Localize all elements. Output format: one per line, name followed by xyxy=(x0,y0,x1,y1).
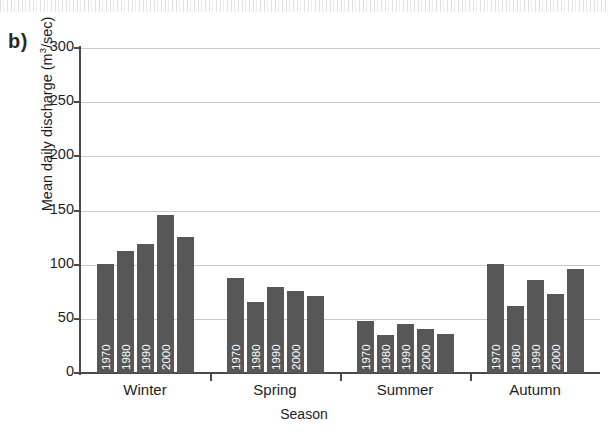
bar-year-text: 1990 xyxy=(140,344,152,370)
bar-year-text: 1990 xyxy=(530,344,542,370)
bar-year-text: 1980 xyxy=(510,344,522,370)
bar: 2000 xyxy=(307,296,324,373)
bar-year-label: 2000 xyxy=(567,336,584,370)
panel-label: b) xyxy=(8,30,28,53)
plot-area: 1960197019801990200019601970198019902000… xyxy=(80,48,600,373)
bar-year-text: 1990 xyxy=(400,344,412,370)
bar-year-label: 2000 xyxy=(307,336,324,370)
bar-year-label: 2000 xyxy=(177,336,194,370)
figure-panel-b: b) Mean daily discharge (m3/sec) 0501001… xyxy=(0,0,608,435)
bar-year-text: 1970 xyxy=(360,344,372,370)
bar-year-text: 1970 xyxy=(100,344,112,370)
bar-year-text: 1970 xyxy=(490,344,502,370)
x-axis-tick xyxy=(470,374,472,381)
y-axis-tick-label: 0 xyxy=(28,363,74,379)
bar-year-text: 1960 xyxy=(80,344,92,370)
bar-year-text: 1960 xyxy=(210,344,222,370)
bar: 2000 xyxy=(437,334,454,373)
x-axis-group-label: Spring xyxy=(210,381,340,398)
bar-year-text: 1980 xyxy=(120,344,132,370)
bar-year-text: 1960 xyxy=(470,344,482,370)
x-axis-tick xyxy=(210,374,212,381)
y-axis-tick-label: 300 xyxy=(28,38,74,54)
bar-year-text: 2000 xyxy=(290,344,302,370)
y-axis-tick-label: 150 xyxy=(28,201,74,217)
y-axis-tick-label: 50 xyxy=(28,309,74,325)
y-axis-tick-label: 250 xyxy=(28,92,74,108)
bar-year-text: 1980 xyxy=(250,344,262,370)
x-axis-group-label: Autumn xyxy=(470,381,600,398)
y-axis-title-main: Mean daily discharge (m xyxy=(39,53,55,211)
scan-artifact-strip xyxy=(0,0,608,12)
bar-year-text: 2000 xyxy=(550,344,562,370)
bar-year-text: 1980 xyxy=(380,344,392,370)
x-axis-title: Season xyxy=(0,406,608,422)
bar-year-text: 1960 xyxy=(340,344,352,370)
x-axis-group-label: Summer xyxy=(340,381,470,398)
bar: 2000 xyxy=(567,269,584,373)
bar: 2000 xyxy=(177,237,194,374)
bar-year-text: 1970 xyxy=(230,344,242,370)
bar-year-text: 2000 xyxy=(160,344,172,370)
x-axis-tick xyxy=(340,374,342,381)
bar-year-text: 1990 xyxy=(270,344,282,370)
bar-year-label: 2000 xyxy=(437,336,454,370)
x-axis-group-label: Winter xyxy=(80,381,210,398)
y-axis-tick-label: 100 xyxy=(28,255,74,271)
bar-year-text: 2000 xyxy=(420,344,432,370)
y-axis-tick-label: 200 xyxy=(28,146,74,162)
